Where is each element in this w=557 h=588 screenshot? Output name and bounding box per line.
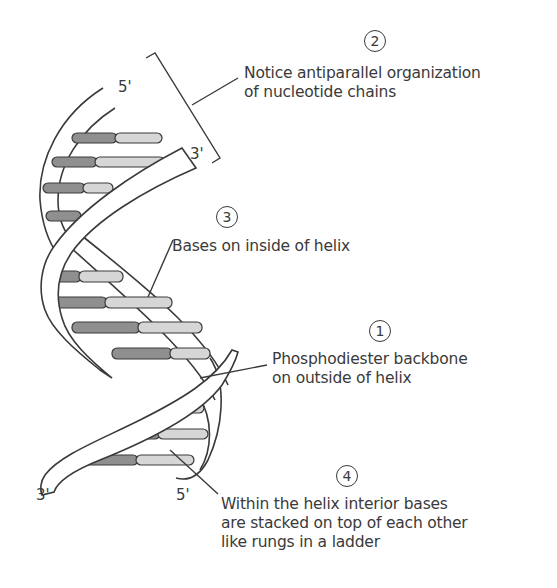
strand-end-5prime-bottom: 5' xyxy=(176,486,190,504)
annotation-stacking-line2: are stacked on top of each other xyxy=(221,513,468,533)
annotation-backbone-line2: on outside of helix xyxy=(272,368,412,388)
annotation-antiparallel-line1: Notice antiparallel organization xyxy=(244,63,481,83)
annotation-stacking-line1: Within the helix interior bases xyxy=(221,494,448,514)
pointer-bases xyxy=(148,240,173,297)
strand-end-3prime-bottom: 3' xyxy=(36,486,50,504)
annotation-stacking-line3: like rungs in a ladder xyxy=(221,532,380,552)
annotation-antiparallel-line2: of nucleotide chains xyxy=(244,82,396,102)
annotation-bases-inside: Bases on inside of helix xyxy=(172,236,350,256)
annotation-number-4: 4 xyxy=(336,465,358,487)
annotation-number-1: 1 xyxy=(369,320,391,342)
annotation-backbone-line1: Phosphodiester backbone xyxy=(272,349,467,369)
strand-end-3prime-top: 3' xyxy=(190,145,204,163)
base-pairs-middle xyxy=(43,271,210,359)
strand-end-5prime-top: 5' xyxy=(118,78,132,96)
pointer-backbone xyxy=(200,365,267,378)
annotation-number-3: 3 xyxy=(216,206,238,228)
annotation-number-2: 2 xyxy=(364,30,386,52)
